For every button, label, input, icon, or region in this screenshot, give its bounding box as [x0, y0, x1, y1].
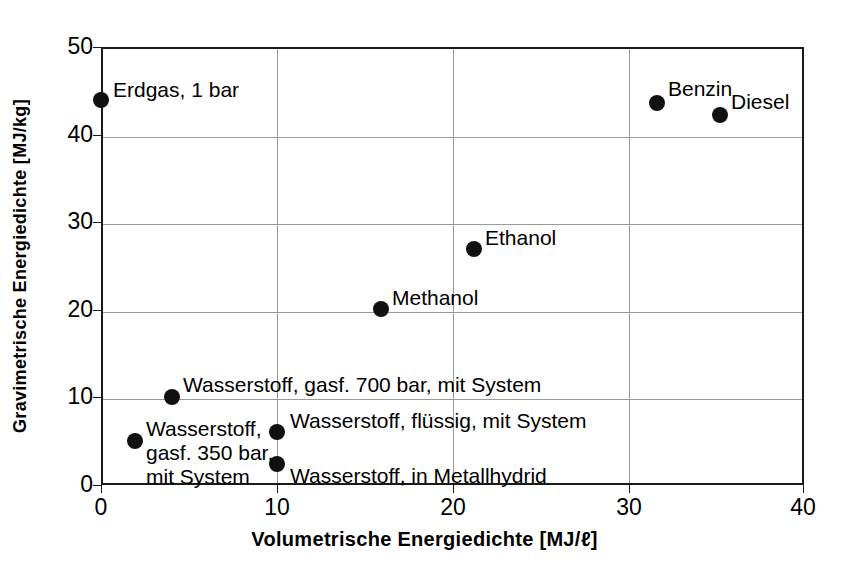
- x-tick-mark-30: [629, 485, 630, 493]
- data-label-benzin: Benzin: [668, 76, 732, 101]
- y-axis-title: Gravimetrische Energiedichte [MJ/kg]: [10, 99, 31, 433]
- data-point-h2-700bar[interactable]: [164, 389, 180, 405]
- y-tick-label-10: 10: [47, 385, 93, 408]
- y-tick-label-50: 50: [47, 35, 93, 58]
- data-point-methanol[interactable]: [373, 301, 389, 317]
- y-tick-label-20: 20: [47, 298, 93, 321]
- data-label-h2-700bar: Wasserstoff, gasf. 700 bar, mit System: [183, 372, 541, 397]
- data-point-diesel[interactable]: [712, 107, 728, 123]
- y-tick-label-40: 40: [47, 123, 93, 146]
- x-tick-label-20: 20: [423, 494, 483, 520]
- data-point-h2-liquid[interactable]: [269, 424, 285, 440]
- data-label-h2-liquid: Wasserstoff, flüssig, mit System: [290, 408, 586, 433]
- gridline-horizontal-30: [103, 224, 802, 225]
- data-point-ethanol[interactable]: [466, 241, 482, 257]
- data-label-erdgas: Erdgas, 1 bar: [113, 77, 239, 102]
- data-point-h2-350bar[interactable]: [127, 433, 143, 449]
- y-axis-title-wrap: Gravimetrische Energiedichte [MJ/kg]: [0, 47, 40, 485]
- y-tick-mark-30: [93, 222, 101, 223]
- y-tick-label-0: 0: [47, 473, 93, 496]
- y-tick-mark-20: [93, 310, 101, 311]
- data-label-h2-hydride: Wasserstoff, in Metallhydrid: [290, 463, 547, 488]
- x-tick-label-10: 10: [247, 494, 307, 520]
- data-label-h2-350bar-line1: Wasserstoff,: [146, 416, 262, 441]
- gridline-horizontal-10: [103, 399, 802, 400]
- y-tick-mark-0: [93, 485, 101, 486]
- data-point-benzin[interactable]: [649, 95, 665, 111]
- data-point-erdgas[interactable]: [93, 92, 109, 108]
- energy-density-scatter-chart: 50 40 30 20 10 0 0 10 20 30 40 Volumetri…: [0, 0, 849, 575]
- x-tick-mark-10: [277, 485, 278, 493]
- gridline-horizontal-40: [103, 137, 802, 138]
- x-tick-label-0: 0: [71, 494, 131, 520]
- x-tick-label-40: 40: [773, 494, 833, 520]
- data-label-ethanol: Ethanol: [485, 225, 556, 250]
- data-label-h2-350bar-line2: gasf. 350 bar,: [146, 440, 273, 465]
- y-tick-label-30: 30: [47, 210, 93, 233]
- x-tick-mark-0: [101, 485, 102, 493]
- gridline-vertical-30: [629, 49, 630, 483]
- data-label-h2-350bar-line3: mit System: [146, 464, 250, 489]
- data-label-diesel: Diesel: [731, 89, 789, 114]
- x-tick-mark-40: [803, 485, 804, 493]
- gridline-vertical-10: [277, 49, 278, 483]
- y-tick-mark-40: [93, 135, 101, 136]
- y-tick-mark-10: [93, 397, 101, 398]
- x-tick-label-30: 30: [599, 494, 659, 520]
- y-tick-mark-50: [93, 47, 101, 48]
- data-label-methanol: Methanol: [392, 285, 478, 310]
- x-axis-title: Volumetrische Energiedichte [MJ/ℓ]: [0, 528, 849, 551]
- gridline-horizontal-20: [103, 312, 802, 313]
